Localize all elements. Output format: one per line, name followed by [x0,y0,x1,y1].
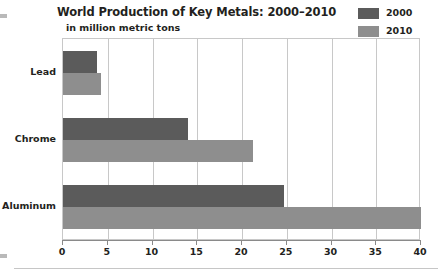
category-label-lead: Lead [30,66,56,77]
x-tick-label-0: 0 [59,246,66,257]
bar-aluminum-2010 [63,207,421,229]
x-tick-25 [286,240,287,245]
x-tick-label-5: 5 [103,246,110,257]
bar-chrome-2010 [63,140,253,162]
x-tick-label-10: 10 [145,246,158,257]
x-tick-label-35: 35 [369,246,382,257]
bar-group-chrome [63,118,421,162]
plot-area [62,38,420,240]
legend-label-2010: 2010 [386,26,412,36]
x-tick-15 [196,240,197,245]
chart-title: World Production of Key Metals: 2000–201… [57,5,336,19]
page-edge-mark-top [0,14,7,18]
x-tick-5 [107,240,108,245]
bar-group-aluminum [63,185,421,229]
x-tick-10 [152,240,153,245]
legend-label-2000: 2000 [386,8,412,18]
x-tick-0 [62,240,63,245]
x-tick-label-40: 40 [413,246,426,257]
category-axis-labels: LeadChromeAluminum [0,38,56,240]
legend-item-2010: 2010 [358,24,412,38]
bar-lead-2010 [63,73,101,95]
x-axis: 0510152025303540 [62,240,420,260]
x-tick-40 [420,240,421,245]
bar-aluminum-2000 [63,185,284,207]
page-bottom-rule [14,268,438,269]
category-label-aluminum: Aluminum [2,200,56,211]
bar-chrome-2000 [63,118,188,140]
legend-item-2000: 2000 [358,6,412,20]
bar-group-lead [63,51,421,95]
chart-page: World Production of Key Metals: 2000–201… [0,0,438,275]
x-tick-label-30: 30 [324,246,337,257]
x-tick-label-25: 25 [279,246,292,257]
x-tick-30 [331,240,332,245]
chart-legend: 2000 2010 [358,6,412,42]
legend-swatch-icon-2010 [358,26,379,37]
x-tick-label-20: 20 [234,246,247,257]
legend-swatch-icon-2000 [358,8,379,19]
x-tick-35 [375,240,376,245]
page-edge-mark-bottom [0,254,7,258]
x-tick-20 [241,240,242,245]
bar-lead-2000 [63,51,97,73]
chart-subtitle: in million metric tons [66,22,180,33]
category-label-chrome: Chrome [15,133,56,144]
x-tick-label-15: 15 [190,246,203,257]
